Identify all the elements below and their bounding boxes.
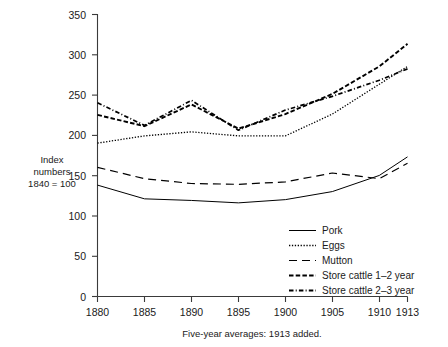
y-tick-label-100: 100 <box>68 210 86 222</box>
y-tick-label-0: 0 <box>80 291 86 303</box>
legend-label-store-cattle-2-3-year: Store cattle 2–3 year <box>322 285 415 296</box>
y-tick-label-250: 250 <box>68 89 86 101</box>
x-tick-label-1880: 1880 <box>86 306 110 318</box>
legend-label-eggs: Eggs <box>322 240 345 251</box>
line-chart: Index numbers 1840 = 100 350 300 250 200… <box>0 0 448 347</box>
y-tick-label-150: 150 <box>68 170 86 182</box>
legend-label-mutton: Mutton <box>322 255 353 266</box>
x-axis-ticks: 1880 1885 1890 1895 1900 1905 1910 1913 <box>86 297 420 319</box>
x-tick-label-1913: 1913 <box>396 306 420 318</box>
x-tick-label-1895: 1895 <box>227 306 251 318</box>
legend-item-pork[interactable]: Pork <box>289 225 344 236</box>
x-axis-caption: Five-year averages: 1913 added. <box>182 328 321 339</box>
y-tick-label-50: 50 <box>74 250 86 262</box>
legend-item-store-cattle-2-3-year[interactable]: Store cattle 2–3 year <box>289 285 415 296</box>
series-line-eggs <box>98 66 408 143</box>
y-axis-title-line-1: Index <box>40 154 63 165</box>
x-tick-label-1910: 1910 <box>368 306 392 318</box>
y-tick-label-350: 350 <box>68 9 86 21</box>
y-tick-label-200: 200 <box>68 129 86 141</box>
series-line-mutton <box>98 163 408 184</box>
series-line-store-cattle-2-3-year <box>98 69 408 130</box>
chart-container: Index numbers 1840 = 100 350 300 250 200… <box>0 0 448 347</box>
legend-item-store-cattle-1-2-year[interactable]: Store cattle 1–2 year <box>289 270 415 281</box>
x-tick-label-1905: 1905 <box>321 306 345 318</box>
y-axis-title-line-2: numbers <box>34 166 71 177</box>
y-axis-ticks: 350 300 250 200 150 100 50 0 <box>68 9 97 303</box>
legend-item-eggs[interactable]: Eggs <box>289 240 345 251</box>
legend-item-mutton[interactable]: Mutton <box>289 255 353 266</box>
x-tick-label-1900: 1900 <box>274 306 298 318</box>
x-tick-label-1890: 1890 <box>180 306 204 318</box>
series-line-pork <box>98 157 408 203</box>
chart-legend: Pork Eggs Mutton Store cattle 1–2 year S… <box>289 225 415 296</box>
x-tick-label-1885: 1885 <box>133 306 157 318</box>
y-tick-label-300: 300 <box>68 49 86 61</box>
legend-label-store-cattle-1-2-year: Store cattle 1–2 year <box>322 270 415 281</box>
legend-label-pork: Pork <box>322 225 344 236</box>
series-group <box>98 44 408 203</box>
